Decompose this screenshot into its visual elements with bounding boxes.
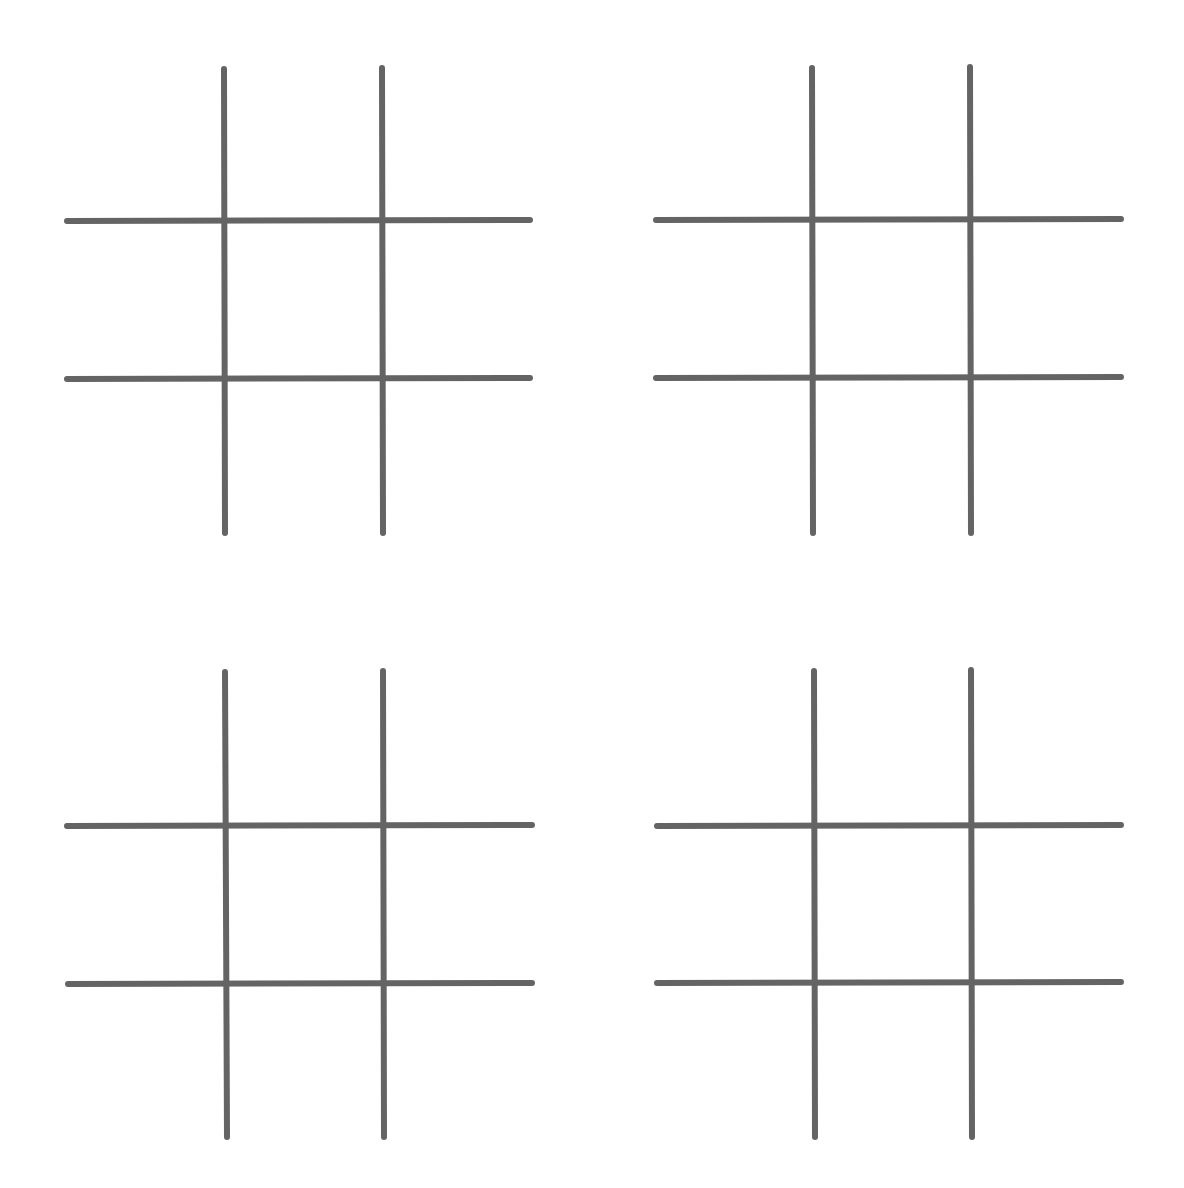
board-cell-r2-c2[interactable] xyxy=(819,830,968,979)
board-cell-r1-c3[interactable] xyxy=(976,675,1118,822)
board-cell-r3-c3[interactable] xyxy=(976,987,1118,1134)
board-cell-r3-c1[interactable] xyxy=(661,987,811,1134)
board-cell-r2-c3[interactable] xyxy=(976,830,1118,979)
vertical-grid-line xyxy=(814,671,815,1137)
vertical-grid-line xyxy=(971,670,972,1137)
board-cell-r3-c2[interactable] xyxy=(819,987,968,1134)
board-cell-r2-c1[interactable] xyxy=(661,830,811,979)
board-cell-r1-c2[interactable] xyxy=(819,675,968,822)
horizontal-grid-line xyxy=(657,982,1121,983)
horizontal-grid-line xyxy=(657,825,1121,826)
board-cell-r1-c1[interactable] xyxy=(661,675,811,822)
